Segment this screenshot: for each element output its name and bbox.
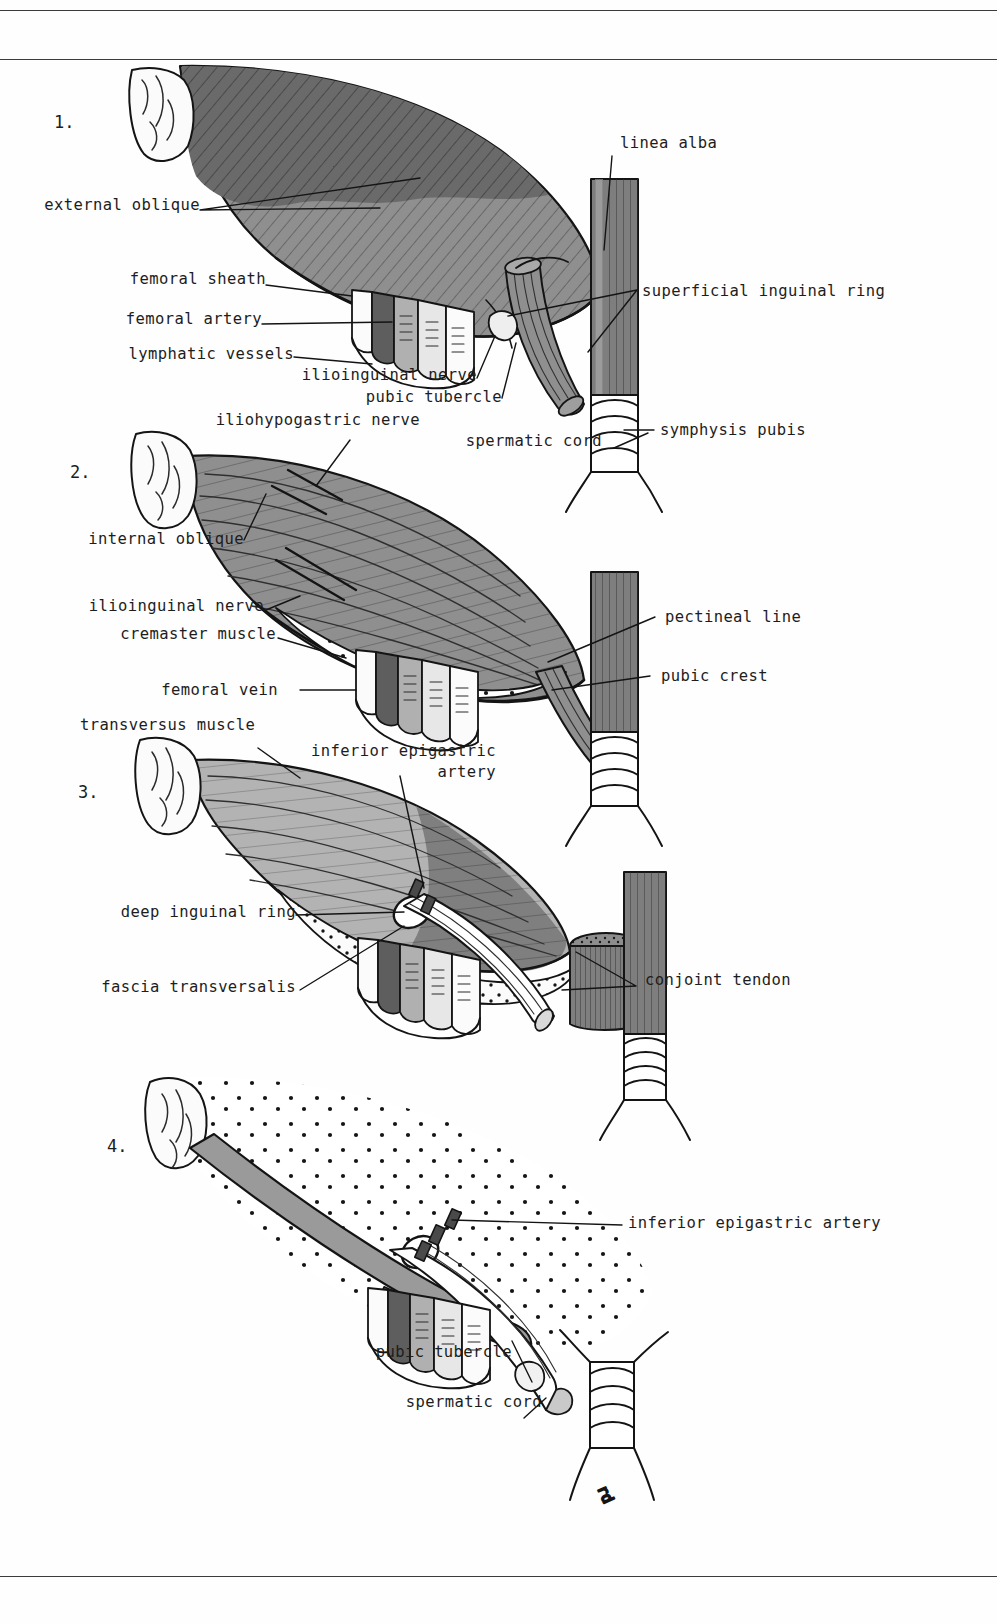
- label-conjoint-tendon: conjoint tendon: [645, 971, 791, 991]
- panel-number-2: 2.: [70, 462, 90, 482]
- label-iliohypogastric-nerve: iliohypogastric nerve: [130, 411, 420, 431]
- panel-4-artwork: rd: [145, 1077, 668, 1506]
- label-ilioinguinal-nerve: ilioinguinal nerve: [180, 366, 477, 386]
- label-fascia-transversalis: fascia transversalis: [80, 978, 296, 998]
- label-femoral-vein: femoral vein: [110, 681, 278, 701]
- symphysis-4: [560, 1330, 668, 1500]
- label-spermatic-cord: spermatic cord: [330, 432, 602, 452]
- label-ilioinguinal-nerve-2: ilioinguinal nerve: [46, 597, 264, 617]
- label-linea-alba: linea alba: [620, 134, 717, 154]
- panel-number-1: 1.: [54, 112, 74, 132]
- label-pubic-tubercle: pubic tubercle: [240, 388, 502, 408]
- panel-number-3: 3.: [78, 782, 98, 802]
- label-cremaster-muscle: cremaster muscle: [60, 625, 276, 645]
- label-inferior-epigastric-artery-line2: artery: [300, 763, 496, 783]
- label-pectineal-line: pectineal line: [665, 608, 801, 628]
- label-superficial-inguinal-ring: superficial inguinal ring: [642, 282, 885, 302]
- label-spermatic-cord-4: spermatic cord: [382, 1393, 542, 1413]
- label-symphysis-pubis: symphysis pubis: [660, 421, 806, 441]
- label-internal-oblique: internal oblique: [32, 530, 244, 550]
- label-external-oblique: external oblique: [32, 196, 200, 216]
- label-inferior-epigastric-artery-line1: inferior epigastric: [300, 742, 496, 762]
- rectus-sheath-1: [566, 179, 662, 512]
- label-femoral-artery: femoral artery: [100, 310, 262, 330]
- label-transversus-muscle: transversus muscle: [80, 716, 255, 736]
- panel-number-4: 4.: [107, 1136, 127, 1156]
- label-deep-inguinal-ring: deep inguinal ring: [96, 903, 296, 923]
- artist-monogram: rd: [593, 1482, 617, 1506]
- inguinal-dissection-illustration: rd: [0, 0, 997, 1624]
- label-inferior-epigastric-artery-4: inferior epigastric artery: [628, 1214, 881, 1234]
- label-femoral-sheath: femoral sheath: [100, 270, 266, 290]
- label-pubic-tubercle-4: pubic tubercle: [352, 1343, 512, 1363]
- label-pubic-crest: pubic crest: [661, 667, 768, 687]
- anatomy-plate: rd 1. 2. 3. 4. external oblique femoral …: [0, 0, 997, 1624]
- label-lymphatic-vessels: lymphatic vessels: [94, 345, 294, 365]
